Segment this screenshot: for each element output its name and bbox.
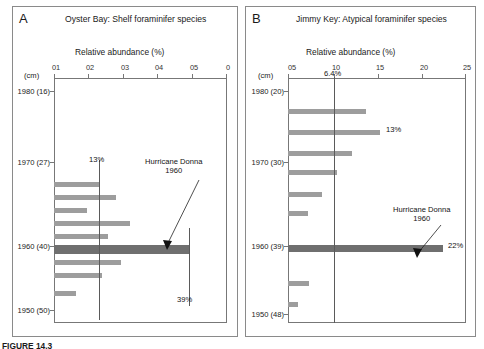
panel-a-hurricane-arrow [13,7,239,338]
panel-b-hurricane-arrow [246,7,477,338]
panel-b: B Jimmy Key: Atypical foraminifer specie… [245,6,476,337]
figure-caption: FIGURE 14.3 [2,341,52,349]
figure-container: A Oyster Bay: Shelf foraminifer species … [0,0,484,349]
panel-a: A Oyster Bay: Shelf foraminifer species … [12,6,238,337]
